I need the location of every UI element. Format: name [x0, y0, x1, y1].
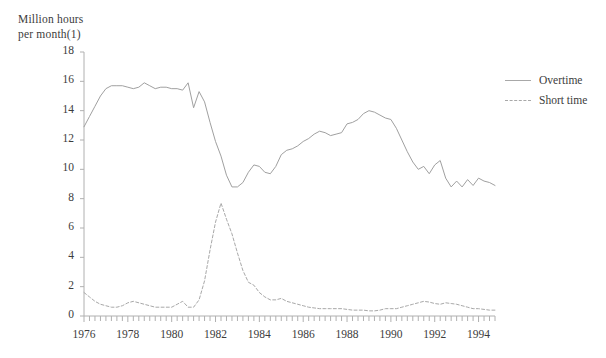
x-axis-tick-label: 1986 — [283, 328, 323, 340]
x-axis-tick-label: 1988 — [327, 328, 367, 340]
x-axis-tick-label: 1982 — [196, 328, 236, 340]
series-line-short-time — [84, 203, 495, 311]
x-axis-tick-label: 1984 — [239, 328, 279, 340]
y-axis-tick-label: 0 — [48, 308, 74, 320]
x-axis-tick-label: 1994 — [459, 328, 499, 340]
y-axis-tick-label: 14 — [48, 103, 74, 115]
legend-label-overtime: Overtime — [539, 74, 582, 86]
x-axis-tick-label: 1980 — [152, 328, 192, 340]
x-axis-tick-label: 1992 — [415, 328, 455, 340]
y-axis-tick-label: 8 — [48, 191, 74, 203]
legend-swatch-solid-icon — [505, 80, 531, 81]
y-axis-tick-label: 6 — [48, 220, 74, 232]
y-axis-tick-label: 2 — [48, 279, 74, 291]
legend-label-short-time: Short time — [539, 94, 587, 106]
chart-container: Million hours per month(1) 0246810121416… — [0, 0, 606, 358]
y-axis-tick-label: 4 — [48, 249, 74, 261]
x-axis-tick-label: 1976 — [64, 328, 104, 340]
y-axis-tick-label: 10 — [48, 161, 74, 173]
chart-legend: Overtime Short time — [505, 70, 587, 110]
y-axis-tick-label: 18 — [48, 44, 74, 56]
x-axis-tick-label: 1978 — [108, 328, 148, 340]
plot-area — [0, 0, 606, 358]
legend-item-short-time: Short time — [505, 90, 587, 110]
legend-swatch-dashed-icon — [505, 100, 531, 101]
legend-item-overtime: Overtime — [505, 70, 587, 90]
y-axis-tick-label: 16 — [48, 73, 74, 85]
series-line-overtime — [84, 83, 495, 187]
x-axis-tick-label: 1990 — [371, 328, 411, 340]
y-axis-tick-label: 12 — [48, 132, 74, 144]
